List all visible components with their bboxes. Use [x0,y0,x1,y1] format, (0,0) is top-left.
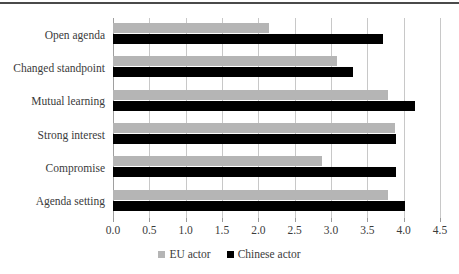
x-tick-label: 3.5 [360,224,374,237]
bar-eu-actor [113,56,337,66]
square-swatch-gray [158,251,165,258]
plot-area [113,18,440,218]
category-label: Open agenda [0,29,105,41]
bar-chart-figure: Open agendaChanged standpointMutual lear… [0,0,459,274]
x-tick-label: 2.0 [251,224,265,237]
x-tick-mark [295,218,296,222]
bar-eu-actor [113,156,322,166]
gridline-4.5 [440,18,441,218]
bar-eu-actor [113,123,395,133]
bar-group [113,151,440,184]
category-label: Agenda setting [0,195,105,207]
bar-chinese-actor [113,201,405,211]
bar-eu-actor [113,90,388,100]
bar-chinese-actor [113,167,396,177]
bar-group [113,51,440,84]
category-label: Compromise [0,162,105,174]
x-tick-mark [222,218,223,222]
x-tick-label: 4.0 [396,224,410,237]
x-tick-mark [113,218,114,222]
x-tick-mark [367,218,368,222]
bar-group [113,185,440,218]
bar-group [113,18,440,51]
square-swatch-black [227,251,234,258]
bar-eu-actor [113,23,269,33]
bar-group [113,118,440,151]
x-axis: 0.00.51.01.52.02.53.03.54.04.5 [113,218,440,244]
x-tick-mark [404,218,405,222]
x-tick-label: 1.5 [215,224,229,237]
x-tick-label: 2.5 [287,224,301,237]
legend-item[interactable]: EU actor [158,248,210,261]
legend-item[interactable]: Chinese actor [227,248,301,261]
category-axis-labels: Open agendaChanged standpointMutual lear… [0,18,109,218]
figure-top-rule [0,2,459,4]
category-label: Changed standpoint [0,62,105,74]
bar-chinese-actor [113,134,396,144]
chart-legend: EU actorChinese actor [0,248,459,261]
bar-chinese-actor [113,67,353,77]
x-tick-mark [331,218,332,222]
legend-label: EU actor [169,248,210,261]
x-tick-label: 4.5 [433,224,447,237]
bar-chinese-actor [113,34,383,44]
x-tick-mark [149,218,150,222]
bar-eu-actor [113,190,388,200]
x-tick-mark [186,218,187,222]
bar-chinese-actor [113,101,415,111]
x-tick-label: 0.0 [106,224,120,237]
x-tick-mark [440,218,441,222]
x-tick-label: 1.0 [178,224,192,237]
x-tick-label: 3.0 [324,224,338,237]
category-label: Mutual learning [0,95,105,107]
bar-group [113,85,440,118]
x-tick-mark [258,218,259,222]
legend-label: Chinese actor [238,248,301,261]
category-label: Strong interest [0,129,105,141]
x-tick-label: 0.5 [142,224,156,237]
